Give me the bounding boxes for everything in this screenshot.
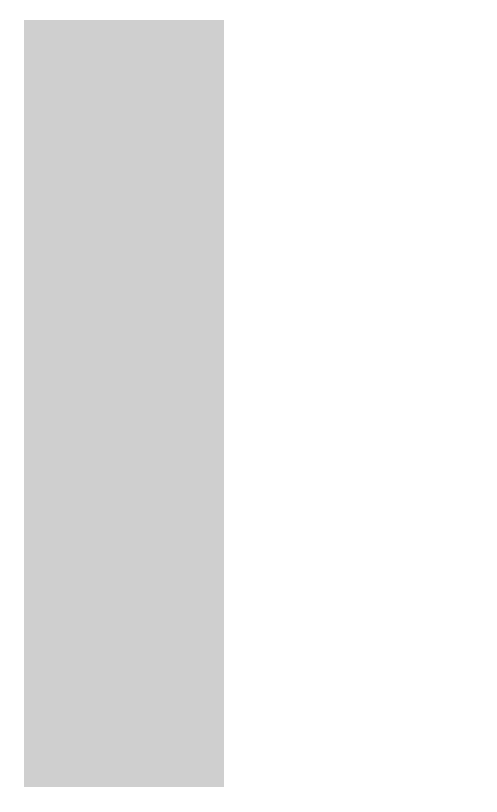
- pacific-possessions-map: [0, 0, 497, 812]
- pacific-water: [24, 20, 223, 787]
